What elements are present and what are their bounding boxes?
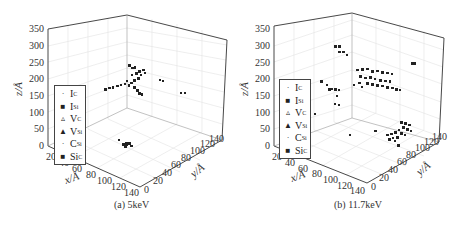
dot-marker-icon: · — [58, 138, 68, 151]
legend-a: ·IC ■ISi ▵VC ▲VSi ·CSi ■SiC — [54, 85, 86, 165]
svg-text:80: 80 — [312, 168, 322, 179]
svg-text:50: 50 — [260, 123, 270, 134]
svg-text:140: 140 — [432, 131, 447, 142]
legend-b: ·IC ■ISi ▵VC ▲VSi ·CSi ■SiC — [279, 79, 311, 159]
legend-item-vsi: ▲VSi — [58, 126, 82, 139]
y-axis-label: y/Å — [187, 161, 207, 180]
legend-item-csi: ·CSi — [283, 132, 307, 145]
dot-marker-icon: · — [58, 88, 68, 101]
legend-item-vc: ▵VC — [283, 107, 307, 120]
z-axis-label: z/Å — [238, 82, 250, 97]
legend-item-isi: ■ISi — [283, 95, 307, 108]
plot-3d-a: 0 50 100 150 200 250 300 350 z/Å 20 40 6… — [0, 0, 234, 227]
square-marker-icon: ■ — [58, 101, 68, 114]
legend-item-csi: ·CSi — [58, 138, 82, 151]
legend-item-vsi: ▲VSi — [283, 120, 307, 133]
svg-text:350: 350 — [255, 23, 270, 34]
dot-marker-icon: · — [283, 132, 293, 145]
svg-text:100: 100 — [29, 107, 44, 118]
svg-text:250: 250 — [29, 57, 44, 68]
legend-item-sic: ■SiC — [58, 151, 82, 164]
legend-item-isi: ■ISi — [58, 101, 82, 114]
legend-item-vc: ▵VC — [58, 113, 82, 126]
svg-text:150: 150 — [29, 90, 44, 101]
plot-3d-b: 0 50 100 150 200 250 300 350 z/Å 20 40 6… — [234, 0, 468, 227]
dot-marker-icon: · — [283, 82, 293, 95]
open-triangle-marker-icon: ▵ — [283, 107, 293, 120]
svg-text:100: 100 — [255, 107, 270, 118]
svg-text:200: 200 — [255, 73, 270, 84]
svg-text:300: 300 — [255, 40, 270, 51]
square-marker-icon: ■ — [283, 145, 293, 158]
svg-text:350: 350 — [29, 23, 44, 34]
svg-text:60: 60 — [171, 159, 181, 170]
svg-text:0: 0 — [371, 181, 376, 192]
triangle-marker-icon: ▲ — [283, 120, 293, 133]
panel-b: 0 50 100 150 200 250 300 350 z/Å 20 40 6… — [234, 0, 468, 227]
svg-text:0: 0 — [144, 184, 149, 195]
svg-text:200: 200 — [29, 73, 44, 84]
svg-text:250: 250 — [255, 57, 270, 68]
square-marker-icon: ■ — [58, 151, 68, 164]
svg-text:150: 150 — [255, 90, 270, 101]
svg-text:100: 100 — [97, 175, 112, 186]
caption-a: (a) 5keV — [114, 199, 149, 210]
z-axis-ticks: 0 50 100 150 200 250 300 350 — [29, 23, 44, 151]
panel-a: 0 50 100 150 200 250 300 350 z/Å 20 40 6… — [0, 0, 234, 227]
z-axis-label: z/Å — [12, 82, 24, 97]
legend-item-ic: ·IC — [58, 88, 82, 101]
svg-text:0: 0 — [265, 140, 270, 151]
legend-item-ic: ·IC — [283, 82, 307, 95]
square-marker-icon: ■ — [283, 95, 293, 108]
svg-text:140: 140 — [209, 133, 224, 144]
svg-text:140: 140 — [350, 185, 365, 196]
svg-text:140: 140 — [124, 187, 139, 198]
legend-item-sic: ■SiC — [283, 145, 307, 158]
z-axis-ticks: 0 50 100 150 200 250 300 350 — [255, 23, 270, 151]
open-triangle-marker-icon: ▵ — [58, 113, 68, 126]
triangle-marker-icon: ▲ — [58, 126, 68, 139]
svg-text:300: 300 — [29, 40, 44, 51]
svg-text:100: 100 — [323, 174, 338, 185]
svg-text:50: 50 — [34, 123, 44, 134]
svg-text:80: 80 — [86, 169, 96, 180]
caption-b: (b) 11.7keV — [334, 199, 382, 210]
y-axis-label: y/Å — [413, 159, 433, 178]
svg-text:0: 0 — [39, 140, 44, 151]
